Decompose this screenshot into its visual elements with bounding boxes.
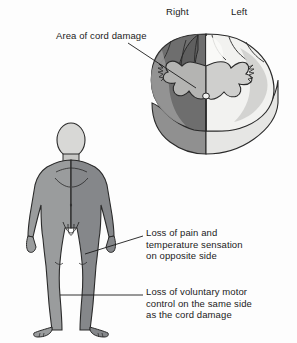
body-hand-right	[106, 236, 116, 252]
body-foot-left	[34, 327, 52, 337]
central-canal	[203, 93, 210, 99]
body-navel	[70, 203, 72, 206]
body-foot-right	[90, 327, 108, 337]
figure-artwork	[0, 0, 297, 343]
spinal-cord-damage-figure: Right Left Area of cord damage Loss of p…	[0, 0, 297, 343]
body-hand-left	[27, 236, 37, 252]
spinal-cord-cross-section	[128, 34, 278, 154]
human-body-figure	[27, 123, 144, 337]
body-head	[57, 123, 85, 157]
